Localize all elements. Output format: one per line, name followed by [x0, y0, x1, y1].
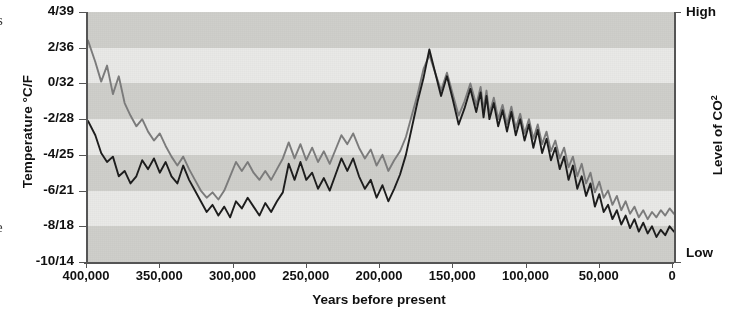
y-axis-tick-label: -8/18: [0, 217, 74, 232]
y-axis-tick: [79, 155, 86, 156]
x-axis-tick-label: 0: [668, 268, 675, 283]
x-axis-tick-label: 50,000: [579, 268, 619, 283]
right-axis-title: Level of CO2: [706, 10, 728, 260]
x-axis-tick-label: 300,000: [209, 268, 256, 283]
y-axis-tick: [79, 191, 86, 192]
y-axis-tick-label: 4/39: [0, 3, 74, 18]
x-axis-tick-label: 250,000: [282, 268, 329, 283]
y-axis-tick-label: 2/36: [0, 39, 74, 54]
right-axis-title-text: Level of CO: [710, 100, 725, 175]
right-axis-title-label: Level of CO2: [709, 95, 726, 175]
y-axis-tick: [79, 262, 86, 263]
x-axis-tick-label: 400,000: [63, 268, 110, 283]
x-axis-tick-label: 100,000: [502, 268, 549, 283]
y-axis-right-tick: [674, 12, 681, 13]
plot-area: [86, 12, 676, 262]
series-lines: [88, 12, 674, 262]
y-axis-right-tick: [674, 262, 681, 263]
y-axis-tick-label: 0/32: [0, 74, 74, 89]
y-axis-title-label: Temperature °C/F: [21, 74, 36, 187]
temperature-line: [88, 50, 674, 238]
y-axis-tick: [79, 12, 86, 13]
climate-chart-figure: s e Temperature °C/F 4/392/360/32-2/28-4…: [0, 0, 744, 324]
x-axis-tick-label: 350,000: [136, 268, 183, 283]
y-axis-tick: [79, 226, 86, 227]
y-axis-tick-label: -10/14: [0, 253, 74, 268]
y-axis-tick-label: -6/21: [0, 182, 74, 197]
y-axis-tick-label: -4/25: [0, 146, 74, 161]
y-axis-tick-label: -2/28: [0, 110, 74, 125]
x-axis-tick-label: 200,000: [356, 268, 403, 283]
y-axis-tick: [79, 119, 86, 120]
co2-superscript: 2: [709, 95, 719, 100]
x-axis-title: Years before present: [86, 292, 672, 307]
x-axis-tick-label: 150,000: [429, 268, 476, 283]
y-axis-tick: [79, 83, 86, 84]
y-axis-tick: [79, 48, 86, 49]
